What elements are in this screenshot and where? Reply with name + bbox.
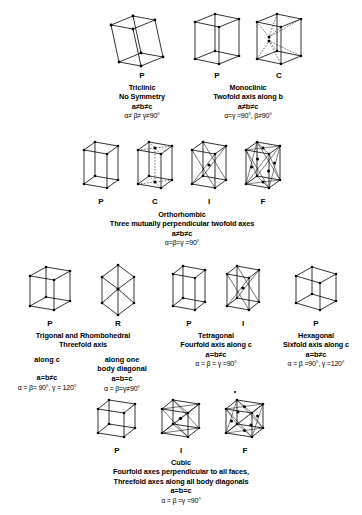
lattice-params-rhombohedral-r: a=b=c [86,374,158,384]
cell-hexagonal-p: P [290,262,342,329]
cell-label-cubic-i: I [180,446,182,456]
lattice-params-trigonal-p: a=b≠c [8,373,86,383]
cell-label-orthorhombic-f: F [261,197,266,207]
cell-cubic-p: P [95,395,139,456]
trigonal-column-body-diagonal: along one body diagonal a=b=c α = β=γ≠90… [86,355,158,393]
symmetry-text-trigonal: Threefold axis [8,340,158,349]
cell-tetragonal-i: I [224,262,262,329]
cell-label-cubic-p: P [114,446,119,456]
monoclinic-c-icon [253,8,305,70]
cell-label-trigonal-p: P [47,319,52,329]
cubic-f-icon [223,395,267,445]
cell-row-triclinic: P [92,8,192,81]
cell-row-cubic: P [84,395,278,456]
orthorhombic-f-icon [243,138,283,196]
stray-dot-mark [234,391,236,393]
cell-orthorhombic-i: I [189,138,229,207]
cell-orthorhombic-p: P [81,138,121,207]
lattice-params-cubic: a=b=c [84,486,278,495]
angle-params-trigonal-p: α = β= 90°, γ = 120° [8,383,86,393]
cell-monoclinic-p: P [191,8,243,81]
cell-monoclinic-c: C [253,8,305,81]
cell-label-orthorhombic-p: P [98,197,103,207]
monoclinic-p-icon [191,8,243,70]
cell-trigonal-p: P [26,262,74,329]
cubic-i-icon [159,395,203,445]
cell-row-monoclinic: P [186,8,310,81]
cell-row-tetragonal: P [166,262,266,329]
hexagonal-p-icon [290,262,342,318]
cell-label-hexagonal-p: P [313,319,318,329]
section-monoclinic: P [186,8,310,121]
cell-tetragonal-p: P [170,262,208,329]
lattice-params-orthorhombic: a≠b≠c [76,229,288,238]
trigonal-axis-heading-c: along c [8,355,86,365]
section-tetragonal: P [166,262,266,369]
cell-row-hexagonal: P [270,262,362,329]
angle-params-tetragonal: α = β = γ =90° [166,359,266,368]
caption-trigonal-heading: Trigonal and Rhombohedral Threefold axis [8,331,158,350]
symmetry-text-cubic-line2: Threefold axes along all body diagonals [84,477,278,486]
trigonal-p-icon [26,262,74,318]
caption-trigonal-columns: along c a=b≠c α = β= 90°, γ = 120° along… [8,355,158,393]
caption-hexagonal: Hexagonal Sixfold axis along c a=b≠c α =… [270,331,362,369]
angle-params-rhombohedral-r: α = β=γ≠90° [86,384,158,394]
cell-orthorhombic-c: C [135,138,175,207]
cell-label-orthorhombic-i: I [208,197,210,207]
symmetry-text-hexagonal: Sixfold axis along c [270,340,362,349]
cell-label-orthorhombic-c: C [152,197,158,207]
trigonal-column-along-c: along c a=b≠c α = β= 90°, γ = 120° [8,355,86,393]
cubic-p-icon [95,395,139,445]
angle-params-cubic: α = β =γ =90° [84,496,278,505]
angle-params-orthorhombic: α=β=γ =90° [76,238,288,247]
cell-orthorhombic-f: F [243,138,283,207]
crystal-system-name-monoclinic: Monoclinic [186,83,310,92]
tetragonal-p-icon [170,262,208,318]
cell-cubic-i: I [159,395,203,456]
cell-label-cubic-f: F [243,446,248,456]
cell-label-tetragonal-p: P [186,319,191,329]
caption-cubic: Cubic Fourfold axes perpendicular to all… [84,458,278,505]
section-triclinic: P Triclinic No Symmetry a≠b≠c α≠ β≠ γ≠90… [92,8,192,121]
cell-row-trigonal: P R [8,262,158,329]
angle-params-triclinic: α≠ β≠ γ≠90° [92,111,192,120]
section-orthorhombic: P [76,138,288,248]
symmetry-text-triclinic: No Symmetry [92,92,192,101]
trigonal-axis-heading-diag-line2: body diagonal [86,364,158,374]
caption-tetragonal: Tetragonal Fourfold axis along c a=b≠c α… [166,331,266,369]
trigonal-axis-heading-diag-line1: along one [86,355,158,365]
crystal-system-name-cubic: Cubic [84,458,278,467]
caption-monoclinic: Monoclinic Twofold axis along b a≠b≠c α=… [186,83,310,121]
crystal-system-name-tetragonal: Tetragonal [166,331,266,340]
symmetry-text-tetragonal: Fourfold axis along c [166,340,266,349]
orthorhombic-c-icon [135,138,175,196]
section-trigonal: P R Trigonal and R [8,262,158,393]
cell-label-triclinic-p: P [139,71,144,81]
crystal-system-name-hexagonal: Hexagonal [270,331,362,340]
section-hexagonal: P Hexagonal Sixfold axis along c a=b≠c α… [270,262,362,369]
section-cubic: P [84,395,278,505]
orthorhombic-i-icon [189,138,229,196]
rhombohedral-r-icon [96,262,140,318]
angle-params-hexagonal: α = β =90°, γ =120° [270,359,362,368]
crystal-system-name-orthorhombic: Orthorhombic [76,210,288,219]
angle-params-monoclinic: α=γ =90°, β≠90° [186,111,310,120]
cell-label-monoclinic-c: C [276,71,282,81]
cell-label-tetragonal-i: I [242,319,244,329]
lattice-params-tetragonal: a=b≠c [166,350,266,359]
cell-label-monoclinic-p: P [214,71,219,81]
cell-label-rhombohedral-r: R [115,319,121,329]
cell-rhombohedral-r: R [96,262,140,329]
tetragonal-i-icon [224,262,262,318]
lattice-params-hexagonal: a=b≠c [270,350,362,359]
triclinic-p-icon [103,8,181,70]
symmetry-text-orthorhombic: Three mutually perpendicular twofold axe… [76,219,288,228]
cell-triclinic-p: P [103,8,181,81]
caption-orthorhombic: Orthorhombic Three mutually perpendicula… [76,210,288,248]
cell-cubic-f: F [223,395,267,456]
symmetry-text-monoclinic: Twofold axis along b [186,92,310,101]
caption-triclinic: Triclinic No Symmetry a≠b≠c α≠ β≠ γ≠90° [92,83,192,121]
orthorhombic-p-icon [81,138,121,196]
symmetry-text-cubic-line1: Fourfold axes perpendicular to all faces… [84,467,278,476]
crystal-system-name-triclinic: Triclinic [92,83,192,92]
